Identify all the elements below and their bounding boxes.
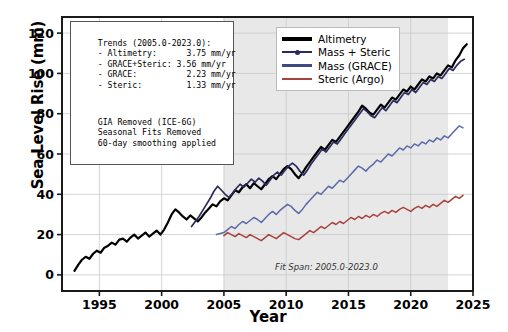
legend-item-mass-steric[interactable]: Mass + Steric [282, 46, 392, 60]
legend-item-steric-argo[interactable]: Steric (Argo) [282, 73, 392, 87]
chart-legend: Altimetry Mass + Steric Mass (GRACE) Ste… [276, 27, 400, 91]
trends-note-smoothing: 60-day smoothing applied [98, 138, 216, 148]
y-axis-label: Sea Level Rise (mm) [29, 5, 47, 205]
trend-row-grace: - GRACE: 2.23 mm/yr [98, 69, 236, 79]
y-tick-label: 20 [37, 227, 55, 242]
legend-item-altimetry[interactable]: Altimetry [282, 32, 392, 46]
trends-header: Trends (2005.0-2023.0): [98, 38, 211, 48]
trend-row-steric: - Steric: 1.33 mm/yr [98, 80, 236, 90]
legend-label-mass-steric: Mass + Steric [318, 46, 390, 58]
legend-label-altimetry: Altimetry [318, 33, 366, 45]
legend-swatch-steric-argo [282, 73, 312, 85]
legend-label-mass-grace: Mass (GRACE) [318, 60, 392, 72]
trend-row-grace-steric: - GRACE+Steric: 3.56 mm/yr [98, 59, 226, 69]
legend-swatch-mass-steric [282, 46, 312, 58]
trends-annotation-box: Trends (2005.0-2023.0): - Altimetry: 3.7… [70, 21, 234, 165]
sea-level-rise-figure: 1995200020052010201520202025020406080100… [0, 0, 508, 332]
trend-row-altimetry: - Altimetry: 3.75 mm/yr [98, 48, 236, 58]
trends-spacer [78, 101, 227, 106]
trends-note-gia: GIA Removed (ICE-6G) [98, 117, 197, 127]
y-tick-label: 0 [45, 267, 54, 282]
trends-note-seasonal: Seasonal Fits Removed [98, 127, 202, 137]
legend-label-steric-argo: Steric (Argo) [318, 73, 384, 85]
legend-item-mass-grace[interactable]: Mass (GRACE) [282, 59, 392, 73]
legend-swatch-altimetry [282, 33, 312, 45]
fit-span-annotation: Fit Span: 2005.0-2023.0 [275, 262, 378, 272]
legend-swatch-mass-grace [282, 60, 312, 72]
x-axis-label: Year [62, 308, 474, 326]
